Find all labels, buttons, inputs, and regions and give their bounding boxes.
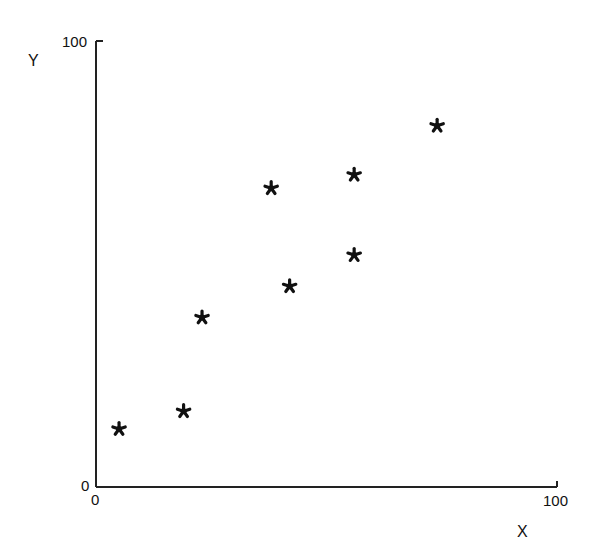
y-tick-100: 100: [62, 33, 87, 50]
asterisk-marker: [196, 311, 208, 323]
y-axis-label: Y: [28, 52, 39, 70]
x-tick-0: 0: [91, 491, 99, 508]
x-axis-label: X: [517, 523, 528, 541]
asterisk-marker: [283, 280, 295, 292]
x-tick-100: 100: [543, 492, 568, 509]
asterisk-marker: [265, 182, 277, 194]
data-points: [113, 119, 443, 434]
y-tick-0: 0: [81, 477, 89, 494]
scatter-plot: [0, 0, 607, 557]
asterisk-marker: [348, 168, 360, 180]
axes: [96, 41, 557, 487]
asterisk-marker: [177, 405, 189, 417]
asterisk-marker: [431, 119, 443, 131]
asterisk-marker: [348, 249, 360, 261]
asterisk-marker: [113, 423, 125, 435]
